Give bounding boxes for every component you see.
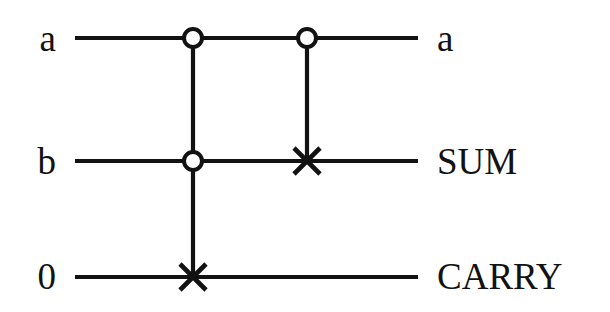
input-label-b: b bbox=[0, 143, 56, 180]
output-label-a: a bbox=[437, 20, 453, 57]
input-label-0: 0 bbox=[0, 258, 56, 295]
quantum-circuit-figure: a b 0 a SUM CARRY bbox=[0, 0, 610, 312]
input-label-a: a bbox=[0, 20, 56, 57]
output-label-sum: SUM bbox=[437, 143, 517, 180]
control-open-circle-a-toffoli bbox=[184, 29, 202, 47]
output-label-carry: CARRY bbox=[437, 258, 562, 295]
control-open-circle-a-cnot bbox=[298, 29, 316, 47]
control-open-circle-b-toffoli bbox=[184, 152, 202, 170]
